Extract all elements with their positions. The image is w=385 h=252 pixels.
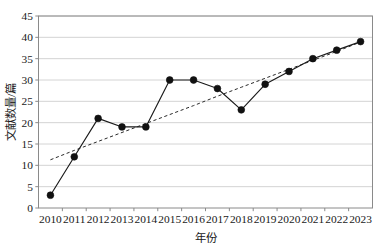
data-point-marker	[238, 106, 245, 113]
y-tick-label: 5	[27, 181, 33, 193]
data-point-marker	[166, 77, 173, 84]
x-axis-tick-labels: 2010201120122013201420152016201720182019…	[39, 213, 372, 225]
x-tick-label: 2018	[230, 213, 253, 225]
data-point-marker	[119, 124, 126, 131]
data-point-marker	[95, 115, 102, 122]
x-tick-label: 2013	[111, 213, 134, 225]
x-tick-label: 2023	[349, 213, 372, 225]
y-tick-label: 45	[22, 10, 34, 22]
y-tick-label: 25	[22, 95, 34, 107]
x-tick-label: 2020	[278, 213, 301, 225]
x-tick-label: 2010	[39, 213, 62, 225]
x-tick-label: 2021	[301, 213, 324, 225]
data-point-marker	[309, 55, 316, 62]
y-tick-label: 40	[22, 31, 34, 43]
x-axis-title: 年份	[195, 231, 218, 244]
data-point-marker	[71, 153, 78, 160]
y-tick-label: 15	[22, 138, 34, 150]
y-tick-label: 30	[22, 74, 34, 86]
x-tick-label: 2016	[182, 213, 205, 225]
x-tick-label: 2014	[134, 213, 157, 225]
x-tick-label: 2015	[158, 213, 181, 225]
data-point-marker	[142, 124, 149, 131]
data-point-marker	[286, 68, 293, 75]
y-axis-title: 文献数量/篇	[4, 83, 17, 141]
x-tick-label: 2012	[87, 213, 110, 225]
x-tick-label: 2017	[206, 213, 229, 225]
line-chart: 051015202530354045 201020112012201320142…	[0, 0, 385, 252]
data-point-marker	[214, 85, 221, 92]
clipped-caption	[0, 246, 385, 252]
data-point-marker	[190, 77, 197, 84]
figure-container: 051015202530354045 201020112012201320142…	[0, 0, 385, 252]
x-tick-label: 2019	[254, 213, 277, 225]
y-tick-label: 20	[22, 117, 34, 129]
data-point-marker	[47, 192, 54, 199]
data-point-marker	[357, 38, 364, 45]
x-tick-label: 2022	[325, 213, 348, 225]
data-point-marker	[333, 47, 340, 54]
data-point-marker	[262, 81, 269, 88]
y-tick-label: 10	[22, 159, 34, 171]
x-tick-label: 2011	[63, 213, 86, 225]
y-tick-label: 0	[27, 202, 33, 214]
y-tick-label: 35	[22, 53, 34, 65]
